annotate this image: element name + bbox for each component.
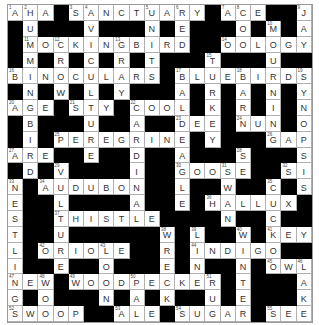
letter-cell[interactable]: N [266,116,281,132]
letter-cell[interactable]: 30G [175,163,190,179]
letter-cell[interactable]: N [23,84,38,100]
letter-cell[interactable]: E [160,259,175,275]
letter-cell[interactable]: 46L [297,259,312,275]
letter-cell[interactable]: D [221,243,236,259]
letter-cell[interactable]: E [190,116,205,132]
letter-cell[interactable]: N [266,84,281,100]
letter-cell[interactable]: 12C [54,37,69,53]
letter-cell[interactable]: 1A [8,5,23,21]
letter-cell[interactable]: G [281,37,296,53]
letter-cell[interactable]: M [23,53,38,69]
letter-cell[interactable]: 39L [190,227,205,243]
letter-cell[interactable]: N [99,5,114,21]
letter-cell[interactable]: D [114,274,129,290]
letter-cell[interactable]: R [130,132,145,148]
letter-cell[interactable]: R [236,306,251,322]
letter-cell[interactable]: D [175,37,190,53]
letter-cell[interactable]: I [236,243,251,259]
letter-cell[interactable]: L [175,100,190,116]
letter-cell[interactable]: 13G [114,37,129,53]
letter-cell[interactable]: E [251,5,266,21]
letter-cell[interactable]: E [190,274,205,290]
letter-cell[interactable]: O [54,68,69,84]
letter-cell[interactable]: G [8,290,23,306]
letter-cell[interactable]: I [266,100,281,116]
letter-cell[interactable]: 55S [266,306,281,322]
letter-cell[interactable]: O [266,37,281,53]
letter-cell[interactable]: I [297,163,312,179]
letter-cell[interactable]: D [281,68,296,84]
letter-cell[interactable]: 15T [205,53,220,69]
letter-cell[interactable]: 53A [114,306,129,322]
letter-cell[interactable]: 37T [54,211,69,227]
letter-cell[interactable]: R [54,243,69,259]
letter-cell[interactable]: E [8,195,23,211]
letter-cell[interactable]: R [84,132,99,148]
letter-cell[interactable]: 18B [236,68,251,84]
letter-cell[interactable]: R [160,243,175,259]
letter-cell[interactable]: I [84,37,99,53]
letter-cell[interactable]: U [84,68,99,84]
letter-cell[interactable]: C [69,68,84,84]
letter-cell[interactable]: U [23,21,38,37]
letter-cell[interactable]: 26G [266,132,281,148]
letter-cell[interactable]: 41K [266,227,281,243]
letter-cell[interactable]: S [297,148,312,164]
letter-cell[interactable]: N [236,259,251,275]
letter-cell[interactable]: 40W [236,227,251,243]
letter-cell[interactable]: 44I [190,243,205,259]
letter-cell[interactable]: U [84,116,99,132]
letter-cell[interactable]: A [281,132,296,148]
letter-cell[interactable]: 25P [54,132,69,148]
letter-cell[interactable]: A [130,116,145,132]
letter-cell[interactable]: 19S [297,68,312,84]
letter-cell[interactable]: Y [190,5,205,21]
letter-cell[interactable]: T [8,227,23,243]
letter-cell[interactable]: B [23,116,38,132]
letter-cell[interactable]: A [130,290,145,306]
letter-cell[interactable]: 47N [8,274,23,290]
letter-cell[interactable]: A [221,195,236,211]
letter-cell[interactable]: E [236,290,251,306]
letter-cell[interactable]: E [281,306,296,322]
letter-cell[interactable]: U [84,179,99,195]
letter-cell[interactable]: A [175,84,190,100]
letter-cell[interactable]: L [236,195,251,211]
letter-cell[interactable]: L [130,211,145,227]
letter-cell[interactable]: E [38,148,53,164]
letter-cell[interactable]: E [175,132,190,148]
letter-cell[interactable]: L [8,243,23,259]
letter-cell[interactable]: L [251,195,266,211]
letter-cell[interactable]: D [69,179,84,195]
letter-cell[interactable]: E [114,243,129,259]
letter-cell[interactable]: L [99,68,114,84]
letter-cell[interactable]: H [69,211,84,227]
letter-cell[interactable]: O [266,243,281,259]
letter-cell[interactable]: 31S [221,163,236,179]
letter-cell[interactable]: R [23,148,38,164]
letter-cell[interactable]: O [114,179,129,195]
letter-cell[interactable]: 54S [175,306,190,322]
letter-cell[interactable]: N [145,21,160,37]
letter-cell[interactable]: W [23,306,38,322]
letter-cell[interactable]: E [205,116,220,132]
letter-cell[interactable]: 42O [38,243,53,259]
letter-cell[interactable]: O [297,116,312,132]
letter-cell[interactable]: A [236,84,251,100]
letter-cell[interactable]: I [251,68,266,84]
letter-cell[interactable]: 33N [8,179,23,195]
letter-cell[interactable]: I [84,211,99,227]
letter-cell[interactable]: S [297,179,312,195]
letter-cell[interactable]: O [38,290,53,306]
letter-cell[interactable]: 8C [236,5,251,21]
letter-cell[interactable]: 24N [236,116,251,132]
letter-cell[interactable]: R [114,53,129,69]
letter-cell[interactable]: 27A [8,148,23,164]
letter-cell[interactable]: O [145,100,160,116]
letter-cell[interactable]: T [114,211,129,227]
letter-cell[interactable]: O [84,243,99,259]
letter-cell[interactable]: A [297,274,312,290]
letter-cell[interactable]: E [236,163,251,179]
letter-cell[interactable]: K [69,37,84,53]
letter-cell[interactable]: E [145,274,160,290]
